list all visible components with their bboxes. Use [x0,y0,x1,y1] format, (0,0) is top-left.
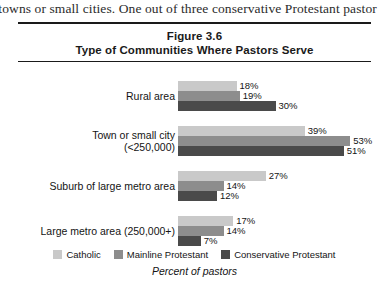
bar-value-label: 30% [279,100,298,111]
bar[interactable] [178,91,240,101]
figure-title-rule [18,61,371,62]
bar-group: Large metro area (250,000+)17%14%7% [18,216,371,246]
bar-row: 14% [178,181,371,191]
bar[interactable] [178,191,217,201]
category-label-line: Large metro area (250,000+) [40,225,175,238]
bar-group: Suburb of large metro area27%14%12% [18,171,371,201]
bar-row: 51% [178,146,371,156]
bar[interactable] [178,126,305,136]
bar-value-label: 51% [347,145,366,156]
bar-chart-plot-area: Rural area18%19%30%Town or small city(<2… [18,64,371,244]
bar-stack: 18%19%30% [178,81,371,111]
bar-row: 18% [178,81,371,91]
chart-legend: CatholicMainline ProtestantConservative … [18,249,371,260]
bar-value-label: 14% [227,225,246,236]
category-label-line: Suburb of large metro area [50,180,176,193]
bar[interactable] [178,216,233,226]
x-axis-label: Percent of pastors [18,265,371,277]
bar-row: 12% [178,191,371,201]
bar-value-label: 27% [269,170,288,181]
bar[interactable] [178,81,237,91]
bar-stack: 39%53%51% [178,126,371,156]
legend-item[interactable]: Mainline Protestant [114,249,208,260]
figure-number: Figure 3.6 [18,29,371,43]
category-label-line: Rural area [126,90,175,103]
legend-item[interactable]: Catholic [53,249,100,260]
bar-value-label: 12% [220,190,239,201]
bar[interactable] [178,101,276,111]
bar-stack: 27%14%12% [178,171,371,201]
page-body-text-fragment: l towns or small cities. One out of thre… [0,0,391,17]
figure-title: Type of Communities Where Pastors Serve [18,43,371,57]
figure-container: Figure 3.6 Type of Communities Where Pas… [18,22,371,280]
category-label: Town or small city(<250,000) [18,126,175,156]
bar[interactable] [178,236,201,246]
legend-swatch-icon [114,250,123,259]
bar-row: 30% [178,101,371,111]
bar[interactable] [178,136,350,146]
bar[interactable] [178,146,344,156]
bar[interactable] [178,171,266,181]
bar-value-label: 7% [204,235,218,246]
legend-label: Conservative Protestant [234,249,335,260]
bar-row: 17% [178,216,371,226]
bar-row: 7% [178,236,371,246]
bar-value-label: 19% [243,90,262,101]
legend-item[interactable]: Conservative Protestant [221,249,335,260]
bar[interactable] [178,181,224,191]
legend-swatch-icon [53,250,62,259]
figure-title-block: Figure 3.6 Type of Communities Where Pas… [18,24,371,61]
bar-group: Town or small city(<250,000)39%53%51% [18,126,371,156]
bar-row: 53% [178,136,371,146]
legend-label: Mainline Protestant [127,249,208,260]
legend-label: Catholic [66,249,100,260]
category-label: Large metro area (250,000+) [18,216,175,246]
bar-group: Rural area18%19%30% [18,81,371,111]
bar-row: 39% [178,126,371,136]
legend-swatch-icon [221,250,230,259]
category-label: Suburb of large metro area [18,171,175,201]
category-label: Rural area [18,81,175,111]
bar-row: 27% [178,171,371,181]
bar-stack: 17%14%7% [178,216,371,246]
bar-value-label: 39% [308,125,327,136]
category-label-line: (<250,000) [124,141,175,154]
category-label-line: Town or small city [92,129,175,142]
bar-row: 19% [178,91,371,101]
